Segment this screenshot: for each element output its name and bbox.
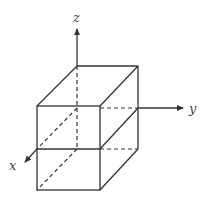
box-diagram: z y x	[0, 0, 208, 199]
z-axis-label: z	[72, 10, 80, 25]
y-axis-label: y	[188, 101, 197, 116]
bottom-right-diagonal	[100, 149, 138, 190]
hidden-x-axis	[37, 108, 77, 149]
top-left-diagonal	[37, 66, 77, 106]
x-axis-label: x	[9, 158, 17, 173]
top-right-diagonal	[100, 66, 138, 106]
front-face	[37, 106, 100, 190]
hidden-bottom-diagonal	[37, 149, 77, 190]
mid-right-diagonal	[100, 108, 138, 149]
x-axis	[25, 149, 37, 162]
